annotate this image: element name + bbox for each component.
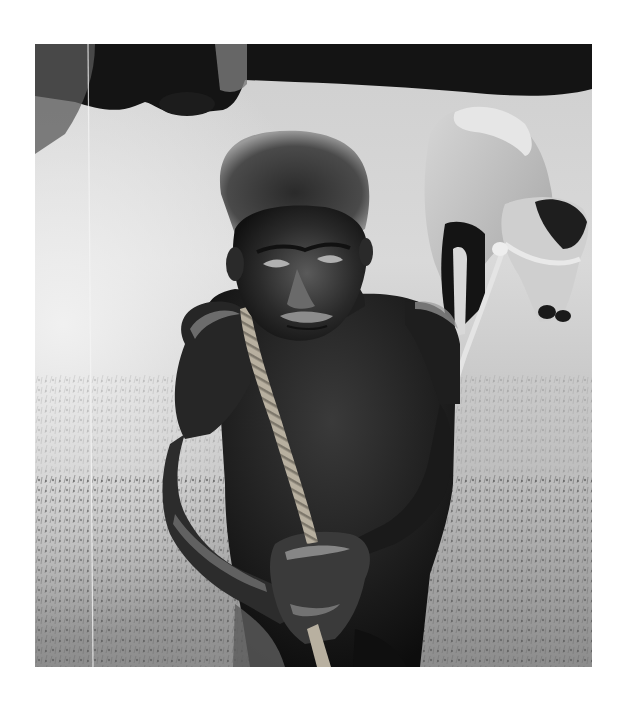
photograph: Elderly shirtless man with grey curly ha… [35,44,592,667]
man-left-ear [226,247,244,281]
horse-muzzle-1 [538,305,556,319]
photo-illustration [35,44,592,667]
horse-knot [492,242,508,256]
distant-animal [159,92,215,116]
man-right-ear [359,238,373,266]
treeline-gap [215,44,247,92]
horse-muzzle-2 [555,310,571,322]
